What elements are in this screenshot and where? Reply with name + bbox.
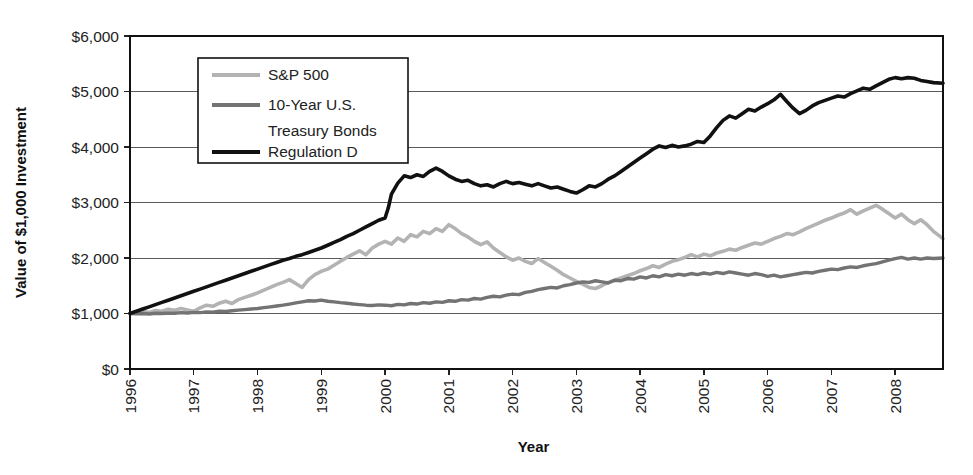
y-axis-tick-label: $3,000 [72,194,120,211]
x-axis-tick-label: 2004 [632,379,649,414]
y-axis-tick-label: $0 [102,361,120,378]
y-axis-tick-label: $2,000 [72,250,120,267]
x-axis-tick-label: 2002 [504,379,521,413]
x-axis-tick-label: 2001 [440,379,457,413]
chart-canvas: $0$1,000$2,000$3,000$4,000$5,000$6,000 1… [0,0,973,475]
x-axis-tick-label: 2003 [568,379,585,413]
legend-label: Treasury Bonds [268,122,377,139]
x-axis-tick-label: 2000 [377,379,394,414]
x-axis-tick-label: 1996 [122,379,139,413]
x-axis-title: Year [518,438,550,455]
x-axis-tick-label: 2008 [887,379,904,413]
x-axis-tick-label: 2007 [823,379,840,413]
chart-legend: S&P 50010-Year U.S.Treasury BondsRegulat… [198,58,408,163]
y-axis-tick-label: $6,000 [72,28,120,45]
y-axis-title: Value of $1,000 Investment [12,107,29,298]
legend-label: 10-Year U.S. [268,96,356,113]
legend-label: Regulation D [268,143,358,160]
y-axis-tick-label: $4,000 [72,139,120,156]
x-axis-tick-label: 1997 [185,379,202,413]
y-axis-tick-label: $5,000 [72,83,120,100]
x-axis-tick-label: 2006 [759,379,776,413]
y-axis-tick-label: $1,000 [72,305,120,322]
legend-label: S&P 500 [268,66,329,83]
x-axis-tick-label: 1999 [313,379,330,413]
investment-growth-chart: $0$1,000$2,000$3,000$4,000$5,000$6,000 1… [0,0,973,475]
x-axis-tick-label: 1998 [249,379,266,413]
x-axis-tick-label: 2005 [695,379,712,413]
